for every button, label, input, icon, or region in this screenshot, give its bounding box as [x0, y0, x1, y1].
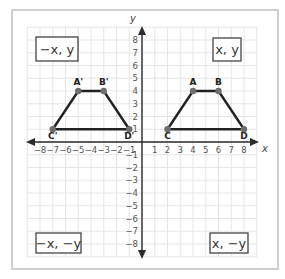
y-tick-label: 4: [133, 86, 138, 96]
y-tick-label: −8: [125, 239, 138, 249]
y-tick-label: −6: [125, 214, 138, 224]
y-tick-label: −3: [125, 175, 138, 185]
x-tick-label: 2: [165, 145, 170, 155]
x-tick-label: −8: [34, 145, 47, 155]
y-tick-label: −7: [125, 226, 138, 236]
quadrant-label-q2: −x, y: [36, 37, 78, 61]
point-label: C: [164, 131, 171, 141]
point-marker: [215, 88, 221, 94]
y-tick-label: 7: [133, 48, 138, 58]
point-label: D: [240, 131, 247, 141]
point-label: A': [73, 77, 83, 87]
x-tick-label: −2: [110, 145, 123, 155]
quadrant-label-q3: −x, −y: [36, 233, 82, 253]
x-tick-label: −6: [59, 145, 72, 155]
point-label: B: [215, 77, 222, 87]
point-marker: [190, 88, 196, 94]
quadrant-label-q4: x, −y: [210, 233, 248, 253]
quadrant-label-q1: x, y: [213, 38, 241, 61]
x-tick-label: 3: [178, 145, 183, 155]
x-tick-label: 4: [190, 145, 195, 155]
y-tick-label: 5: [133, 73, 138, 83]
x-tick-label: −5: [72, 145, 85, 155]
quadrant-label-q4-text: x, −y: [212, 236, 247, 251]
y-axis-label: y: [129, 13, 137, 24]
y-tick-label: 8: [133, 35, 138, 45]
point-marker: [75, 88, 81, 94]
x-tick-label: −7: [46, 145, 59, 155]
quadrant-label-q3-text: −x, −y: [36, 236, 82, 251]
x-tick-label: 5: [203, 145, 208, 155]
y-tick-label: 2: [133, 112, 138, 122]
y-tick-label: 6: [133, 61, 138, 71]
y-tick-label: −4: [125, 188, 138, 198]
x-tick-label: 7: [229, 145, 234, 155]
coordinate-plane: x y −8−7−6−5−4−3−2−112345678 87654321−1−…: [0, 0, 285, 279]
point-label: D': [124, 131, 134, 141]
point-marker: [101, 88, 107, 94]
quadrant-label-q2-text: −x, y: [40, 42, 75, 57]
x-tick-label: 6: [216, 145, 221, 155]
y-tick-label: −1: [125, 150, 138, 160]
point-label: B': [99, 77, 109, 87]
y-tick-label: −5: [125, 201, 138, 211]
point-label: C': [48, 131, 57, 141]
y-tick-label: 3: [133, 99, 138, 109]
x-tick-label: −3: [97, 145, 110, 155]
x-tick-label: 8: [241, 145, 246, 155]
x-tick-label: −4: [85, 145, 98, 155]
quadrant-label-q1-text: x, y: [215, 42, 239, 57]
y-tick-label: −2: [125, 163, 138, 173]
x-tick-label: 1: [152, 145, 157, 155]
x-axis-label: x: [261, 143, 268, 154]
point-label: A: [190, 77, 197, 87]
